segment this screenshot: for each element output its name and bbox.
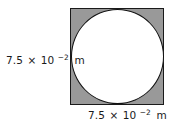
left-label-unit: m: [74, 54, 84, 66]
left-label-exponent: −2: [58, 53, 69, 62]
left-label-multiplication-sign: ×: [26, 54, 37, 66]
bottom-label-exponent: −2: [140, 108, 151, 117]
bottom-label-base: 10: [123, 109, 137, 121]
left-label-mantissa: 7.5: [6, 54, 23, 66]
bottom-side-label: 7.5 × 10 −2 m: [88, 110, 167, 121]
bottom-label-unit: m: [156, 109, 166, 121]
left-side-label: 7.5 × 10 −2 m: [6, 55, 85, 66]
geometry-figure: 7.5 × 10 −2 m 7.5 × 10 −2 m: [0, 0, 172, 127]
bottom-label-multiplication-sign: ×: [108, 109, 119, 121]
bottom-label-mantissa: 7.5: [88, 109, 105, 121]
left-label-base: 10: [41, 54, 55, 66]
